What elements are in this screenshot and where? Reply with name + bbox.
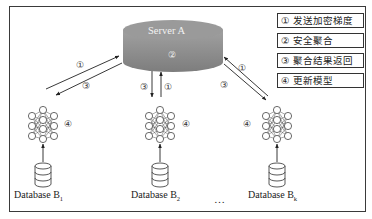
step-label-1-client-k: ① [238, 63, 246, 73]
step-label-4-client-1: ④ [64, 119, 72, 129]
database-icon-b2 [152, 163, 168, 187]
model-icon-client-2 [145, 106, 174, 142]
step-label-1-client-1: ① [76, 60, 84, 70]
legend-item-4: ④ 更新模型 [277, 73, 364, 88]
database-label-bk: Database Bk [248, 189, 297, 202]
step-label-4-client-k: ④ [243, 119, 251, 129]
step-label-3-client-1: ③ [82, 81, 90, 91]
database-icon-b1 [35, 163, 51, 187]
arrows-client-2 [152, 71, 161, 97]
legend-item-3: ③ 聚合结果返回 [277, 53, 364, 68]
server-label: Server A [148, 25, 185, 36]
step-label-3-client-2: ③ [140, 82, 148, 92]
legend-item-1: ① 发送加密梯度 [277, 13, 364, 28]
model-icon-client-k [262, 106, 291, 142]
step-label-1-client-2: ① [164, 82, 172, 92]
step-label-2-server: ② [168, 50, 176, 60]
model-icon-client-1 [28, 106, 57, 142]
database-label-b1: Database B1 [14, 189, 63, 202]
ellipsis: … [214, 193, 225, 205]
step-label-3-client-k: ③ [220, 80, 228, 90]
database-label-b2: Database B2 [131, 189, 180, 202]
database-icon-bk [269, 163, 285, 187]
step-label-4-client-2: ④ [182, 119, 190, 129]
legend-item-2: ② 安全聚合 [277, 33, 364, 48]
